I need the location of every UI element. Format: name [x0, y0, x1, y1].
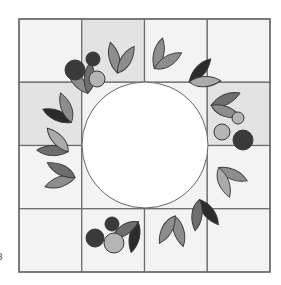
page-number: 3: [0, 252, 3, 262]
center-circle: [82, 82, 208, 208]
berry: [214, 124, 230, 140]
quilt-tile: [19, 209, 82, 272]
berry: [86, 229, 104, 247]
berry: [104, 233, 124, 253]
berry: [86, 52, 100, 66]
berry: [233, 130, 253, 150]
wreath-quilt-diagram: [0, 0, 281, 285]
berry: [105, 217, 119, 231]
quilt-tile: [207, 19, 270, 82]
berry: [232, 112, 244, 124]
berry: [65, 60, 85, 80]
berry: [89, 71, 105, 87]
